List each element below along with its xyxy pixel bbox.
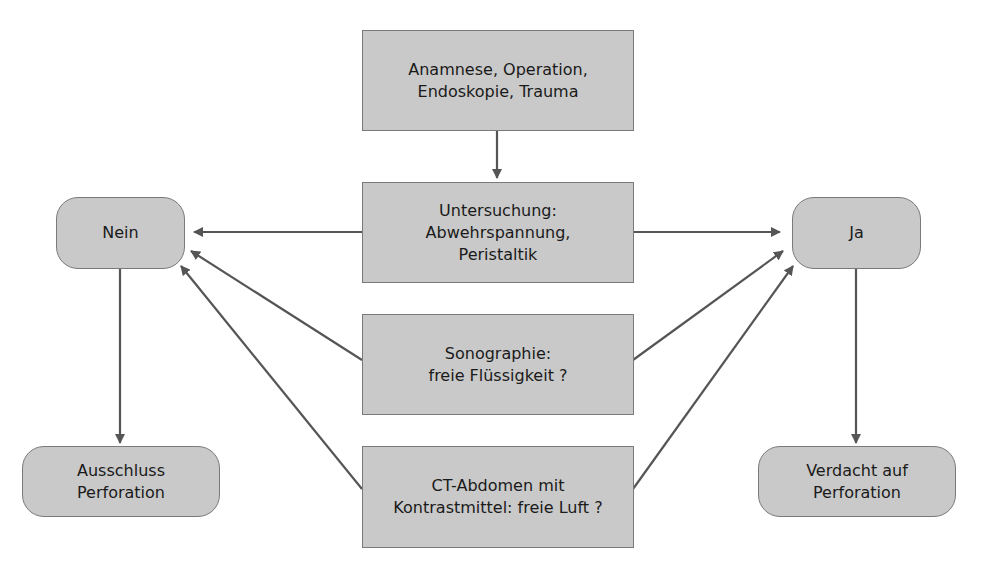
node-verdacht-line-1: Verdacht auf	[806, 460, 908, 482]
node-ja-label: Ja	[849, 222, 864, 244]
node-untersuchung-line-1: Untersuchung:	[439, 200, 557, 222]
node-untersuchung-line-2: Abwehrspannung,	[426, 222, 571, 244]
node-ausschluss-line-1: Ausschluss	[77, 460, 165, 482]
node-nein: Nein	[56, 197, 185, 269]
node-ct-line-1: CT-Abdomen mit	[432, 475, 565, 497]
arrow-sonographie-to-nein	[191, 251, 362, 360]
node-untersuchung-line-3: Peristaltik	[459, 244, 538, 266]
node-sonographie-line-2: freie Flüssigkeit ?	[429, 365, 568, 387]
node-ja: Ja	[792, 197, 921, 269]
arrow-sonographie-to-ja	[633, 251, 783, 360]
node-nein-label: Nein	[102, 222, 138, 244]
node-verdacht-line-2: Perforation	[813, 482, 901, 504]
node-ct-line-2: Kontrastmittel: freie Luft ?	[393, 497, 602, 519]
node-sonographie-line-1: Sonographie:	[445, 343, 551, 365]
node-ausschluss-line-2: Perforation	[77, 482, 165, 504]
node-anamnese-line-1: Anamnese, Operation,	[408, 59, 588, 81]
node-anamnese-line-2: Endoskopie, Trauma	[418, 81, 579, 103]
node-ausschluss-perforation: Ausschluss Perforation	[22, 446, 220, 517]
node-anamnese: Anamnese, Operation, Endoskopie, Trauma	[362, 30, 634, 131]
node-ct-abdomen: CT-Abdomen mit Kontrastmittel: freie Luf…	[362, 446, 634, 548]
node-verdacht-perforation: Verdacht auf Perforation	[758, 446, 956, 517]
node-sonographie: Sonographie: freie Flüssigkeit ?	[362, 314, 634, 415]
node-untersuchung: Untersuchung: Abwehrspannung, Peristalti…	[362, 182, 634, 283]
